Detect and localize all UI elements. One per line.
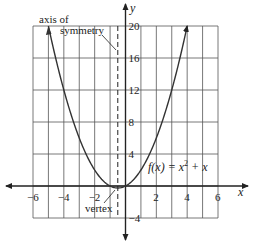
y-tick-label: 4	[129, 148, 135, 160]
x-tick-label: 4	[184, 191, 190, 203]
x-axis-label: x	[237, 185, 244, 199]
function-label: f(x) = x2 + x	[148, 159, 208, 174]
y-tick-label: −4	[129, 212, 141, 224]
y-tick-label: 16	[129, 52, 141, 64]
vertex-label: vertex	[85, 202, 113, 214]
x-tick-label: −4	[58, 191, 70, 203]
axis-of-symmetry-pointer	[102, 35, 116, 50]
annotations: axis of symmetry vertex f(x) = x2 + x x …	[39, 1, 244, 214]
axis-of-symmetry-label-line2: symmetry	[60, 24, 104, 36]
y-axis-label: y	[129, 1, 136, 15]
x-tick-label: −6	[27, 191, 39, 203]
y-tick-label: 12	[129, 84, 140, 96]
y-tick-label: 8	[129, 116, 135, 128]
x-tick-label: 2	[153, 191, 159, 203]
parabola-chart: −6−4−224620161284−4 axis of symmetry ver…	[0, 0, 254, 247]
x-tick-label: 6	[215, 191, 221, 203]
y-tick-label: 20	[129, 20, 141, 32]
